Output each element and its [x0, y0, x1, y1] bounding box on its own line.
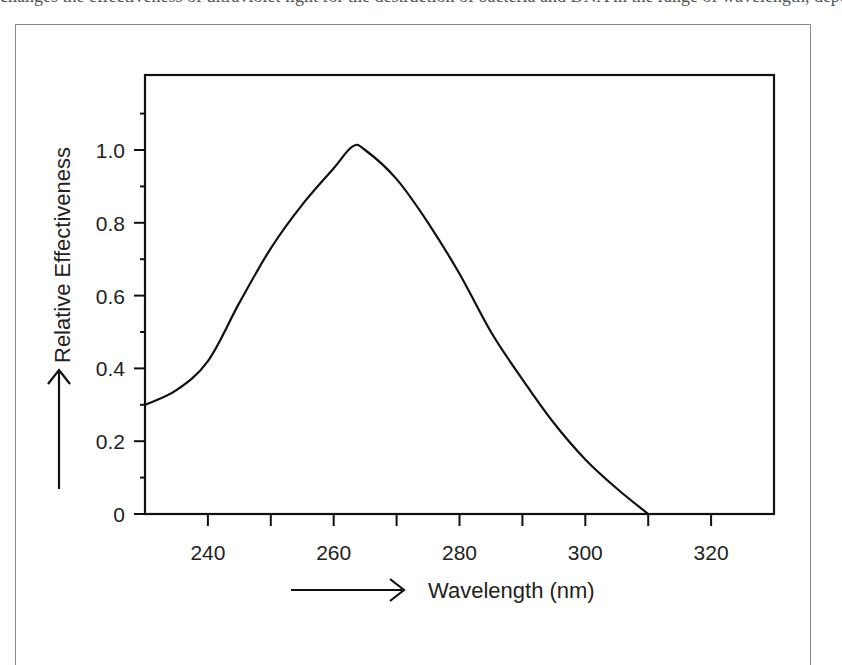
- y-tick-label: 0.8: [96, 212, 125, 235]
- x-tick-label: 300: [568, 541, 603, 564]
- y-tick-label: 0.4: [96, 357, 126, 380]
- x-tick-label: 320: [694, 541, 729, 564]
- y-axis-title: Relative Effectiveness: [50, 147, 75, 363]
- y-tick-label: 1.0: [96, 139, 125, 162]
- x-tick-label: 260: [316, 541, 351, 564]
- x-tick-label: 240: [190, 541, 225, 564]
- up-arrow-icon: [48, 370, 70, 489]
- effectiveness-curve: [145, 145, 648, 514]
- x-axis: 240260280300320: [190, 514, 728, 564]
- y-tick-label: 0: [113, 503, 125, 526]
- x-tick-label: 280: [442, 541, 477, 564]
- y-axis-title-group: Relative Effectiveness: [48, 147, 75, 489]
- x-axis-title-group: Wavelength (nm): [291, 578, 595, 603]
- right-arrow-icon: [291, 579, 404, 601]
- x-axis-title: Wavelength (nm): [428, 578, 595, 603]
- y-axis: 00.20.40.60.81.0: [96, 114, 145, 526]
- plot-area: [145, 75, 774, 514]
- y-tick-label: 0.6: [96, 285, 125, 308]
- plot-frame: [145, 75, 774, 514]
- y-tick-label: 0.2: [96, 430, 125, 453]
